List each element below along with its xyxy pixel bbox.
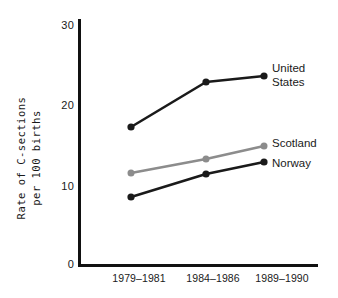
- x-tick-label-3: 1989–1990: [255, 272, 308, 284]
- data-point-united-states-2: [202, 78, 209, 85]
- data-point-scotland-1: [128, 170, 135, 177]
- data-point-united-states-3: [260, 72, 267, 79]
- line-chart: Rate of C-sections per 100 births 30 20 …: [0, 0, 338, 298]
- series-label-united-states: United States: [272, 62, 305, 89]
- series-line-scotland: [131, 146, 264, 173]
- x-tick-label-1: 1979–1981: [112, 272, 165, 284]
- series-label-united-states-line-1: United: [272, 62, 305, 76]
- series-label-scotland: Scotland: [272, 137, 317, 151]
- data-point-scotland-3: [261, 143, 268, 150]
- series-line-norway: [131, 162, 264, 197]
- series-label-norway: Norway: [272, 157, 311, 171]
- x-tick-label-2: 1984–1986: [186, 272, 239, 284]
- data-point-scotland-2: [203, 156, 210, 163]
- data-point-united-states-1: [127, 123, 134, 130]
- series-line-united-states: [131, 76, 264, 127]
- data-point-norway-2: [202, 170, 209, 177]
- data-point-norway-3: [260, 158, 267, 165]
- data-point-norway-1: [127, 193, 134, 200]
- series-label-united-states-line-2: States: [272, 76, 305, 90]
